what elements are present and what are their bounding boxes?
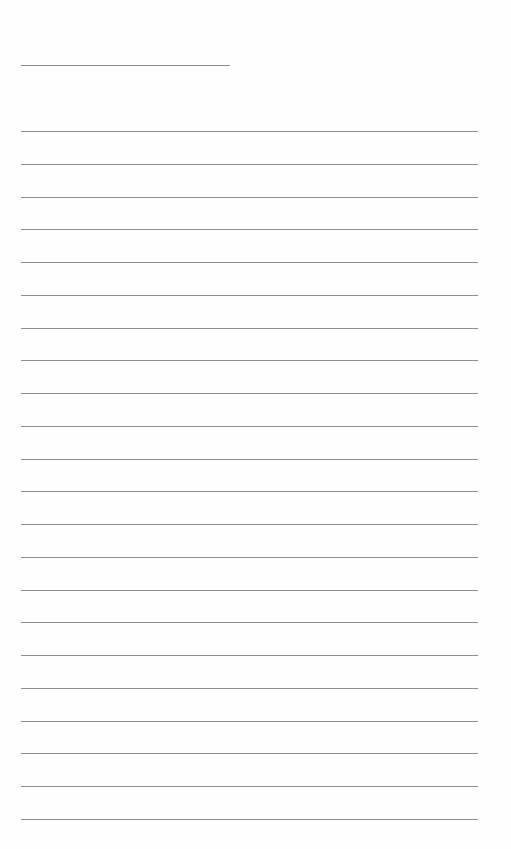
ruled-line bbox=[21, 524, 478, 525]
ruled-line bbox=[21, 393, 478, 394]
ruled-line bbox=[21, 164, 478, 165]
ruled-line bbox=[21, 753, 478, 754]
ruled-line bbox=[21, 360, 478, 361]
ruled-line bbox=[21, 721, 478, 722]
ruled-line bbox=[21, 262, 478, 263]
ruled-line bbox=[21, 229, 478, 230]
ruled-line bbox=[21, 426, 478, 427]
ruled-line bbox=[21, 557, 478, 558]
ruled-line bbox=[21, 491, 478, 492]
ruled-line bbox=[21, 590, 478, 591]
ruled-line bbox=[21, 197, 478, 198]
ruled-line bbox=[21, 295, 478, 296]
ruled-line bbox=[21, 688, 478, 689]
ruled-line bbox=[21, 622, 478, 623]
lined-paper-page bbox=[0, 0, 511, 849]
ruled-line bbox=[21, 328, 478, 329]
ruled-line bbox=[21, 131, 478, 132]
ruled-line bbox=[21, 819, 478, 820]
ruled-line bbox=[21, 655, 478, 656]
ruled-line bbox=[21, 459, 478, 460]
ruled-line bbox=[21, 786, 478, 787]
header-line bbox=[21, 65, 230, 66]
